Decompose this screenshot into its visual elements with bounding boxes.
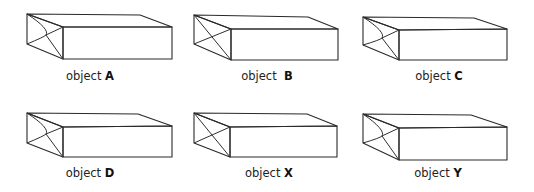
objects-figure: object Aobject Bobject Cobject Dobject X… (0, 0, 534, 192)
label-prefix: object (414, 166, 453, 180)
label-prefix: object (415, 69, 454, 83)
object-label: object X (245, 166, 293, 180)
label-prefix: object (245, 166, 284, 180)
object-label: object D (66, 166, 115, 180)
label-prefix: object (66, 69, 105, 83)
label-letter: D (105, 166, 115, 180)
object-label: object C (415, 69, 463, 83)
label-letter: Y (452, 166, 462, 180)
label-letter: C (454, 69, 462, 83)
label-prefix: object (241, 69, 284, 83)
label-letter: A (105, 69, 114, 83)
object-label: object B (241, 69, 293, 83)
label-letter: B (284, 69, 293, 83)
object-label: object A (66, 69, 114, 83)
object-label: object Y (414, 166, 462, 180)
label-prefix: object (66, 166, 105, 180)
label-letter: X (284, 166, 293, 180)
